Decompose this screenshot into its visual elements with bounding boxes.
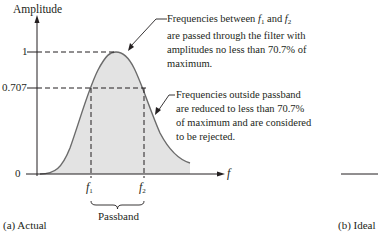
tick-label-0: 0 (15, 167, 21, 180)
f2-label: f2 (139, 181, 146, 198)
caption-actual: (a) Actual (3, 219, 47, 232)
x-axis-label: f (227, 167, 230, 180)
tick-label-0707: 0.707 (2, 81, 27, 94)
tick-label-1: 1 (22, 45, 28, 58)
y-axis-arrow-icon (35, 15, 40, 23)
passband-note-leader (131, 19, 167, 46)
reject-note: Frequencies outside passband are reduced… (176, 88, 311, 144)
passband-note: Frequencies between f1 and f2 are passed… (167, 12, 306, 71)
reject-note-leader (158, 95, 175, 111)
f1-label: f1 (86, 181, 93, 198)
x-axis-arrow-icon (217, 172, 225, 177)
passband-label: Passband (98, 210, 139, 223)
y-axis-label: Amplitude (13, 3, 62, 16)
caption-ideal: (b) Ideal (338, 219, 376, 232)
passband-brace (91, 201, 144, 209)
